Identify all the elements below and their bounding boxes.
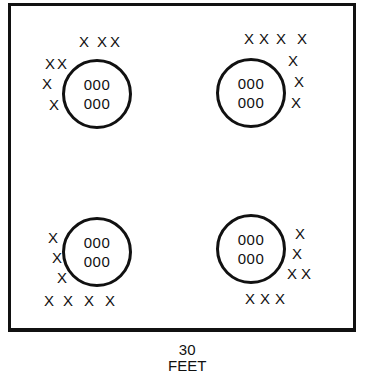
x-mark: X [297,31,307,46]
x-mark: X [57,270,67,285]
x-mark: X [259,31,269,46]
x-mark: X [42,76,52,91]
x-mark: X [49,97,59,112]
x-mark: X [260,291,270,306]
x-mark: X [110,34,120,49]
inner-line: 000 [65,75,129,94]
x-mark: X [294,74,304,89]
scale-unit: FEET [168,358,206,372]
x-mark: X [301,266,311,281]
x-mark: X [288,53,298,68]
x-mark: X [291,95,301,110]
x-mark: X [292,246,302,261]
x-mark: X [245,291,255,306]
x-mark: X [84,293,94,308]
x-mark: X [52,250,62,265]
inner-line: 000 [219,230,283,249]
x-mark: X [57,56,67,71]
inner-line: 000 [65,94,129,113]
inner-line: 000 [65,233,129,252]
inner-line: 000 [219,74,283,93]
x-mark: X [287,266,297,281]
scale-value: 30 [168,342,206,358]
inner-line: 000 [65,252,129,271]
circle-bottom-left: 000000 [62,217,132,287]
circle-bottom-right: 000000 [216,214,286,284]
x-mark: X [45,56,55,71]
inner-line: 000 [219,249,283,268]
x-mark: X [48,230,58,245]
x-mark: X [105,293,115,308]
circle-top-left: 000000 [62,59,132,129]
x-mark: X [97,34,107,49]
x-mark: X [244,31,254,46]
x-mark: X [276,31,286,46]
x-mark: X [44,293,54,308]
scale-label: 30 FEET [168,342,206,372]
x-mark: X [79,34,89,49]
circle-top-right: 000000 [216,58,286,128]
x-mark: X [275,291,285,306]
x-mark: X [295,226,305,241]
x-mark: X [63,293,73,308]
inner-line: 000 [219,93,283,112]
